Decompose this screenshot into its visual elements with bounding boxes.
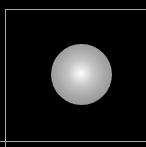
frame-top-border: [5, 9, 146, 10]
shaded-sphere: [51, 44, 112, 105]
frame-left-border: [5, 9, 6, 147]
frame-bottom-border: [0, 141, 146, 142]
